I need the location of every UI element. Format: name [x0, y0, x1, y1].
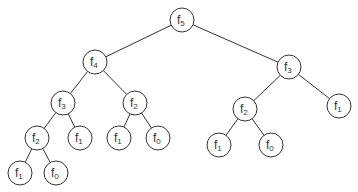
tree-edge [68, 114, 75, 127]
tree-node: f4 [83, 50, 107, 74]
tree-edge [298, 74, 329, 98]
tree-node: f2 [25, 126, 49, 150]
tree-edge [142, 113, 152, 128]
tree-edge [254, 75, 281, 100]
tree-node: f3 [51, 91, 75, 115]
tree-nodes: f5f4f3f3f2f2f1f2f1f1f0f1f0f1f0 [8, 8, 351, 185]
tree-edge [252, 119, 264, 136]
tree-node: f1 [107, 126, 131, 150]
tree-edge [226, 119, 238, 136]
tree-node: f1 [207, 133, 231, 157]
tree-node: f0 [146, 126, 170, 150]
tree-edge [193, 25, 278, 62]
tree-edge [106, 25, 171, 57]
tree-node: f1 [327, 94, 351, 118]
tree-node: f0 [259, 133, 283, 157]
recursion-tree-diagram: f5f4f3f3f2f2f1f2f1f1f0f1f0f1f0 [0, 0, 358, 192]
tree-node: f3 [277, 55, 301, 79]
tree-edge [25, 149, 32, 162]
tree-node: f1 [8, 161, 32, 185]
tree-node: f2 [233, 97, 257, 121]
tree-edge [124, 114, 130, 127]
tree-node: f0 [44, 161, 68, 185]
tree-edge [103, 71, 126, 95]
tree-node: f2 [123, 91, 147, 115]
tree-edge [43, 149, 51, 163]
tree-node: f5 [170, 8, 194, 32]
tree-edge [70, 71, 87, 93]
tree-node: f1 [68, 126, 92, 150]
tree-edge [44, 113, 56, 129]
